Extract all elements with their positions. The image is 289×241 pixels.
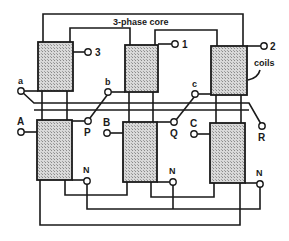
horizontal-buses: [21, 91, 261, 124]
svg-text:R: R: [258, 132, 266, 143]
terminal-3: 3: [73, 47, 101, 58]
svg-text:b: b: [105, 77, 111, 87]
svg-text:C: C: [190, 118, 197, 129]
svg-text:B: B: [103, 117, 110, 128]
terminal-R: R: [258, 123, 266, 143]
coils-label: coils: [254, 58, 275, 68]
svg-text:c: c: [192, 79, 197, 89]
svg-text:a: a: [18, 76, 24, 86]
terminal-B: B: [103, 117, 123, 136]
terminal-c: c: [176, 79, 211, 120]
svg-text:2: 2: [270, 41, 276, 52]
svg-text:N: N: [169, 166, 176, 176]
svg-text:N: N: [83, 165, 90, 175]
bottom-interconnects: [40, 180, 260, 225]
terminal-A: A: [17, 116, 37, 135]
svg-text:Q: Q: [170, 128, 178, 139]
svg-text:3: 3: [95, 47, 101, 58]
svg-text:1: 1: [182, 39, 188, 50]
terminal-N-left: N: [72, 165, 90, 184]
coil-top-middle: [125, 45, 158, 92]
coil-bottom-middle: [123, 122, 157, 182]
terminal-Q: Q: [157, 119, 178, 139]
terminal-1: 1: [158, 39, 188, 50]
svg-text:A: A: [17, 116, 24, 127]
terminal-2: 2: [247, 41, 276, 52]
svg-text:N: N: [256, 168, 263, 178]
terminal-a: a: [18, 76, 38, 94]
coil-top-right: [211, 46, 247, 95]
terminal-C: C: [190, 118, 210, 137]
terminal-N-middle: N: [157, 166, 176, 185]
core-title: 3-phase core: [113, 17, 169, 27]
terminal-N-right: N: [245, 168, 263, 187]
svg-text:P: P: [84, 127, 91, 138]
coil-bottom-right: [210, 123, 245, 183]
coil-top-left: [38, 42, 73, 91]
terminal-P: P: [72, 118, 91, 138]
three-phase-transformer-diagram: 3-phase core 3 1 2 coils: [0, 0, 289, 241]
coil-bottom-left: [37, 120, 72, 180]
terminal-b: b: [90, 77, 125, 118]
coils-callout-arrow: [248, 70, 260, 80]
